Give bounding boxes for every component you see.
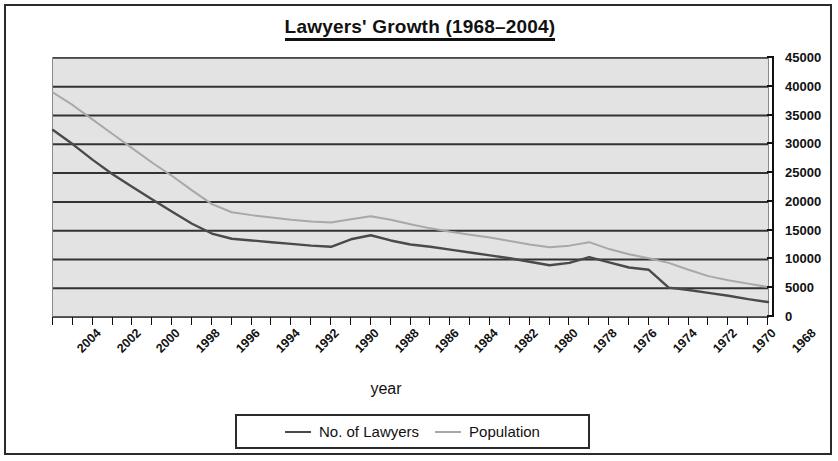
x-axis-tick	[747, 317, 748, 325]
y-axis-tick-label: 0	[785, 309, 792, 324]
x-axis-tick	[489, 317, 490, 325]
x-axis-tick	[429, 317, 430, 325]
y-axis-line	[772, 57, 774, 317]
chart-legend: No. of LawyersPopulation	[235, 414, 590, 449]
x-axis-tick	[549, 317, 550, 325]
plot-svg	[53, 58, 768, 317]
x-axis-tick	[191, 317, 192, 325]
x-axis-tick-label: 1972	[710, 326, 740, 356]
y-axis-tick-label: 5000	[785, 280, 814, 295]
x-axis-tick	[72, 317, 73, 325]
x-axis-tick	[568, 317, 569, 325]
x-axis-tick	[350, 317, 351, 325]
x-axis-tick	[151, 317, 152, 325]
x-axis-tick	[608, 317, 609, 325]
x-axis-tick-label: 2000	[154, 326, 184, 356]
x-axis-tick-label: 1970	[749, 326, 779, 356]
x-axis-tick	[529, 317, 530, 325]
x-axis-tick-label: 1994	[273, 326, 303, 356]
series-line-population	[53, 93, 768, 288]
x-axis-tick	[648, 317, 649, 325]
legend-line-swatch-icon	[435, 431, 461, 433]
x-axis-tick	[270, 317, 271, 325]
x-axis-tick	[92, 317, 93, 325]
y-axis-tick	[767, 56, 774, 58]
y-axis-tick-label: 15000	[785, 222, 821, 237]
x-axis-tick	[171, 317, 172, 325]
y-axis-tick	[767, 85, 774, 87]
x-axis-tick-label: 1986	[432, 326, 462, 356]
x-axis-tick	[509, 317, 510, 325]
x-axis-tick	[449, 317, 450, 325]
y-axis-tick	[767, 171, 774, 173]
gridlines	[53, 58, 768, 317]
y-axis-tick	[767, 229, 774, 231]
x-axis-tick-label: 1984	[471, 326, 501, 356]
legend-item[interactable]: No. of Lawyers	[285, 423, 419, 440]
y-axis-tick	[767, 315, 774, 317]
x-axis-tick-label: 1980	[551, 326, 581, 356]
x-axis-tick	[330, 317, 331, 325]
x-axis-tick	[668, 317, 669, 325]
x-axis-tick-label: 1968	[789, 326, 819, 356]
y-axis-tick	[767, 142, 774, 144]
y-axis-tick	[767, 286, 774, 288]
x-axis-tick	[211, 317, 212, 325]
legend-item[interactable]: Population	[435, 423, 540, 440]
x-axis-tick	[370, 317, 371, 325]
x-axis-tick-label: 2004	[74, 326, 104, 356]
x-axis-tick-label: 1974	[670, 326, 700, 356]
plot-area	[52, 57, 769, 318]
y-axis-tick	[767, 114, 774, 116]
y-axis-tick-label: 10000	[785, 251, 821, 266]
x-axis-tick-label: 1982	[511, 326, 541, 356]
y-axis-tick-label: 20000	[785, 193, 821, 208]
x-axis-tick	[231, 317, 232, 325]
x-axis-ticks	[52, 317, 768, 326]
chart-title-text: Lawyers' Growth (1968–2004)	[285, 16, 556, 41]
x-axis-tick	[52, 317, 53, 325]
x-axis-tick-label: 1978	[591, 326, 621, 356]
y-axis-tick-label: 25000	[785, 165, 821, 180]
x-axis-tick-label: 1988	[392, 326, 422, 356]
legend-item-label: No. of Lawyers	[319, 423, 419, 440]
x-axis-tick-labels: 2004200220001998199619941992199019881986…	[6, 326, 834, 382]
legend-item-label: Population	[469, 423, 540, 440]
x-axis-title: year	[6, 380, 766, 398]
series-line-no-of-lawyers	[53, 130, 768, 302]
y-axis-tick-label: 40000	[785, 78, 821, 93]
y-axis-tick-labels: 4500040000350003000025000200001500010000…	[775, 50, 838, 330]
x-axis-tick-label: 1990	[352, 326, 382, 356]
x-axis-tick	[469, 317, 470, 325]
x-axis-tick	[310, 317, 311, 325]
data-series-layer	[53, 93, 768, 303]
y-axis-tick-label: 30000	[785, 136, 821, 151]
x-axis-tick-label: 2002	[114, 326, 144, 356]
x-axis-tick	[112, 317, 113, 325]
x-axis-tick	[688, 317, 689, 325]
x-axis-tick-label: 1996	[233, 326, 263, 356]
x-axis-tick	[707, 317, 708, 325]
x-axis-tick	[131, 317, 132, 325]
y-axis-tick	[767, 257, 774, 259]
y-axis-tick-label: 35000	[785, 107, 821, 122]
x-axis-tick-label: 1998	[193, 326, 223, 356]
x-axis-tick-label: 1976	[630, 326, 660, 356]
x-axis-tick	[767, 317, 768, 325]
x-axis-tick	[390, 317, 391, 325]
x-axis-tick	[628, 317, 629, 325]
y-axis-tick	[767, 200, 774, 202]
x-axis-tick	[410, 317, 411, 325]
y-axis-tick-label: 45000	[785, 50, 821, 65]
legend-line-swatch-icon	[285, 431, 311, 433]
x-axis-tick	[251, 317, 252, 325]
chart-container: Lawyers' Growth (1968–2004) 450004000035…	[4, 4, 832, 455]
x-axis-tick-label: 1992	[312, 326, 342, 356]
chart-title: Lawyers' Growth (1968–2004)	[6, 16, 834, 38]
x-axis-tick	[588, 317, 589, 325]
x-axis-tick	[727, 317, 728, 325]
x-axis-tick	[290, 317, 291, 325]
